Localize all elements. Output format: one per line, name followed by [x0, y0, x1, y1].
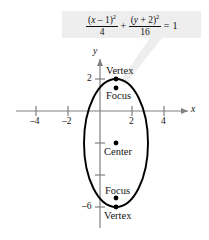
y-tick-label-2: 2: [87, 74, 92, 84]
equation-term-1-numerator: (x – 1)2: [86, 13, 118, 25]
equation-plus-sign: +: [121, 20, 127, 31]
equation-term-2-denominator: 16: [138, 27, 152, 37]
point-center: [114, 141, 119, 146]
callout-pointer: [121, 38, 162, 86]
equation-term-1-denominator: 4: [98, 27, 107, 37]
annotation-vertex-bottom: Vertex: [104, 211, 131, 222]
equation-term-1: (x – 1)2 4: [86, 13, 118, 36]
x-axis-label: x: [191, 105, 195, 115]
x-axis-arrow: [181, 108, 188, 114]
equation-term-2: (y + 2)2 16: [129, 13, 162, 36]
x-tick-label-2: 2: [129, 117, 134, 127]
y-axis-label: y: [93, 47, 97, 57]
y-axis-arrow: [97, 59, 103, 66]
y-tick-label--6: –6: [82, 202, 92, 212]
point-vertex-bottom: [114, 205, 119, 210]
annotation-center: Center: [104, 147, 132, 158]
point-vertex-top: [114, 77, 119, 82]
equation-text: (x – 1)2 4 + (y + 2)2 16 = 1: [66, 13, 198, 37]
ellipse-figure: (x – 1)2 4 + (y + 2)2 16 = 1 x y –4 –2 2…: [0, 0, 209, 240]
equation-rhs: 1: [173, 20, 178, 31]
annotation-focus-top: Focus: [106, 91, 131, 102]
equation-equals-sign: =: [164, 20, 170, 31]
annotation-vertex-top: Vertex: [106, 66, 133, 77]
x-tick-label--4: –4: [30, 117, 40, 127]
x-tick-label-4: 4: [161, 117, 166, 127]
annotation-focus-bottom: Focus: [105, 186, 130, 197]
x-tick-label--2: –2: [62, 117, 72, 127]
equation-term-2-numerator: (y + 2)2: [129, 13, 162, 25]
